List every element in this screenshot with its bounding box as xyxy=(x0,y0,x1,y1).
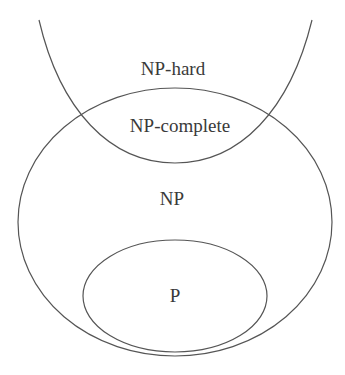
complexity-classes-diagram: NP-hard NP-complete NP P xyxy=(0,0,345,375)
np-hard-label: NP-hard xyxy=(141,58,206,79)
np-complete-label: NP-complete xyxy=(130,115,230,136)
p-label: P xyxy=(170,285,181,306)
np-hard-boundary xyxy=(39,20,312,163)
np-label: NP xyxy=(160,188,184,209)
